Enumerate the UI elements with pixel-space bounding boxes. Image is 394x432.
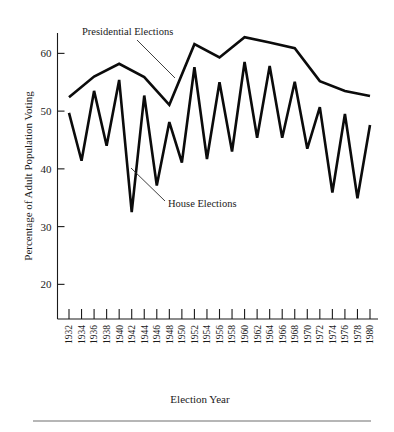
house-elections-line — [69, 62, 370, 212]
chart-figure: 2030405060 19321934193619381940194219441… — [0, 0, 394, 432]
x-tick-label: 1934 — [77, 325, 87, 344]
y-tick-label: 20 — [41, 278, 53, 290]
y-axis-ticks: 2030405060 — [41, 47, 65, 290]
x-tick-label: 1958 — [227, 325, 237, 344]
x-tick-label: 1960 — [240, 325, 250, 344]
y-axis-title: Percentage of Adult Population Voting — [22, 91, 34, 261]
x-tick-label: 1970 — [303, 325, 313, 344]
x-tick-label: 1952 — [190, 325, 200, 344]
x-tick-label: 1950 — [177, 325, 187, 344]
x-tick-label: 1968 — [290, 325, 300, 344]
x-tick-label: 1936 — [89, 325, 99, 344]
presidential-elections-annotation: Presidential Elections — [82, 26, 173, 37]
y-tick-label: 30 — [41, 221, 53, 233]
x-tick-label: 1980 — [365, 325, 375, 344]
series-group — [69, 37, 370, 212]
presidential-elections-line — [69, 37, 370, 105]
x-axis-title: Election Year — [170, 393, 230, 405]
x-tick-label: 1940 — [115, 325, 125, 344]
x-tick-label: 1954 — [202, 325, 212, 344]
y-tick-label: 60 — [41, 47, 53, 59]
voter-turnout-line-chart: 2030405060 19321934193619381940194219441… — [0, 0, 394, 432]
x-tick-label: 1962 — [253, 325, 263, 344]
x-tick-label: 1976 — [340, 325, 350, 344]
x-tick-label: 1966 — [278, 325, 288, 344]
x-tick-label: 1956 — [215, 325, 225, 344]
x-tick-label: 1948 — [165, 325, 175, 344]
x-tick-label: 1978 — [353, 325, 363, 344]
x-tick-label: 1972 — [315, 325, 325, 344]
x-axis-tick-labels: 1932193419361938194019421944194619481950… — [64, 325, 375, 344]
y-tick-label: 50 — [41, 105, 53, 117]
house-elections-annotation: House Elections — [168, 198, 237, 209]
x-tick-label: 1974 — [328, 325, 338, 344]
x-tick-label: 1946 — [152, 325, 162, 344]
presidential-leader-line — [137, 40, 175, 78]
x-axis-ticks — [69, 309, 370, 319]
x-tick-label: 1942 — [127, 325, 137, 344]
x-tick-label: 1938 — [102, 325, 112, 344]
y-tick-label: 40 — [41, 163, 53, 175]
x-tick-label: 1944 — [140, 325, 150, 344]
x-tick-label: 1932 — [64, 325, 74, 344]
x-tick-label: 1964 — [265, 325, 275, 344]
